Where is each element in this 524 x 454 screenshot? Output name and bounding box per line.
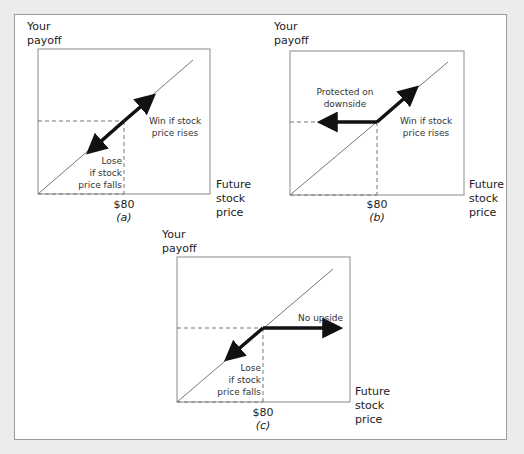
x-label-line: Future [355, 385, 390, 399]
y-label-line: Your [274, 20, 309, 34]
annotation-line: if stock [208, 374, 261, 386]
annotation-line: Protected on [300, 86, 390, 98]
panel-a-x-label: Future stock price [216, 178, 251, 220]
panel-b-y-label: Your payoff [274, 20, 309, 48]
x-label-line: price [216, 206, 251, 220]
panel-c-y-label: Your payoff [162, 228, 197, 256]
x-label-line: stock [355, 399, 390, 413]
panel-b-protected-annotation: Protected on downside [300, 86, 390, 110]
y-label-line: payoff [27, 34, 62, 48]
annotation-line: price rises [140, 127, 210, 139]
annotation-line: price falls [70, 179, 122, 191]
annotation-line: Win if stock [390, 115, 462, 127]
x-label-line: Future [216, 178, 251, 192]
panel-a-lose-arrow [90, 121, 124, 151]
panel-b-win-annotation: Win if stock price rises [390, 115, 462, 139]
annotation-line: Lose [208, 362, 261, 374]
panel-a-y-label: Your payoff [27, 20, 62, 48]
x-label-line: Future [469, 178, 504, 192]
panel-a-caption: (a) [104, 211, 144, 225]
y-label-line: Your [162, 228, 197, 242]
panel-c-lose-annotation: Lose if stock price falls [208, 362, 261, 398]
panel-a-strike-label: $80 [104, 198, 144, 212]
x-label-line: stock [216, 192, 251, 206]
panel-c-strike-label: $80 [243, 406, 283, 420]
x-label-line: price [469, 206, 504, 220]
panel-c-caption: (c) [243, 419, 283, 433]
panel-b-caption: (b) [357, 211, 397, 225]
x-label-line: price [355, 413, 390, 427]
panel-b-x-label: Future stock price [469, 178, 504, 220]
annotation-line: downside [300, 98, 390, 110]
panel-c-chart [177, 257, 350, 402]
annotation-line: if stock [70, 167, 122, 179]
x-label-line: stock [469, 192, 504, 206]
panel-c-lose-arrow [228, 328, 263, 358]
annotation-line: price rises [390, 127, 462, 139]
panel-a-win-annotation: Win if stock price rises [140, 115, 210, 139]
annotation-line: price falls [208, 386, 261, 398]
panel-c-x-label: Future stock price [355, 385, 390, 427]
y-label-line: payoff [162, 242, 197, 256]
annotation-line: Lose [70, 155, 122, 167]
y-label-line: payoff [274, 34, 309, 48]
annotation-line: Win if stock [140, 115, 210, 127]
annotation-line: No upside [280, 312, 343, 324]
panel-b-strike-label: $80 [357, 198, 397, 212]
y-label-line: Your [27, 20, 62, 34]
panel-a-lose-annotation: Lose if stock price falls [70, 155, 122, 191]
panel-c-no-upside-annotation: No upside [280, 312, 343, 324]
payoff-diagrams [0, 0, 524, 454]
